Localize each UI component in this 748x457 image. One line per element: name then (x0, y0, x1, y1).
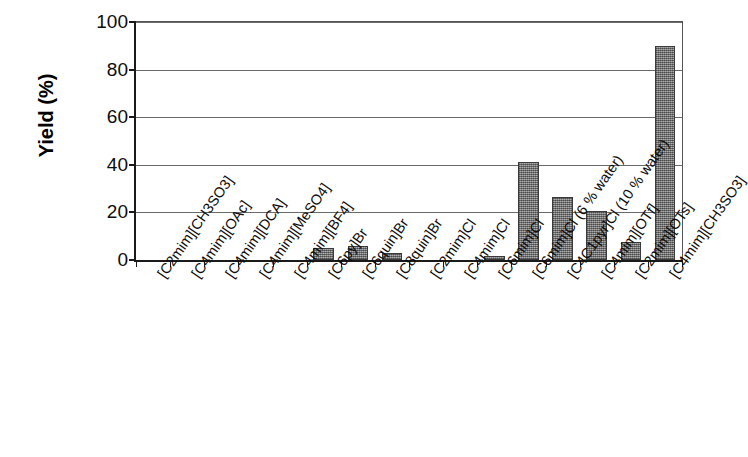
y-tick-label-100: 100 (96, 11, 128, 33)
y-tick-label-60: 60 (107, 106, 128, 128)
y-tick-mark-20 (129, 211, 136, 213)
y-tick-label-20: 20 (107, 201, 128, 223)
y-axis-title: Yield (%) (35, 56, 58, 176)
y-tick-mark-0 (129, 259, 136, 261)
y-tick-label-0: 0 (117, 249, 128, 271)
y-tick-label-80: 80 (107, 59, 128, 81)
gridline-80 (136, 70, 682, 71)
y-tick-mark-60 (129, 116, 136, 118)
y-tick-label-40: 40 (107, 154, 128, 176)
gridline-60 (136, 117, 682, 118)
x-tick-mark-0 (136, 260, 137, 267)
gridline-100 (136, 22, 682, 23)
y-tick-mark-40 (129, 164, 136, 166)
y-tick-mark-100 (129, 21, 136, 23)
y-tick-mark-80 (129, 69, 136, 71)
gridline-40 (136, 165, 682, 166)
